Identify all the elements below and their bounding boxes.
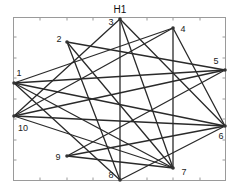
node-8 xyxy=(118,178,122,182)
node-10 xyxy=(12,114,16,118)
node-label-6: 6 xyxy=(218,131,223,141)
node-6 xyxy=(223,124,227,128)
node-7 xyxy=(171,166,175,170)
edge-5-9 xyxy=(67,70,225,156)
edge-4-6 xyxy=(173,28,225,126)
edge-7-10 xyxy=(14,116,173,168)
node-label-4: 4 xyxy=(180,24,185,34)
node-label-5: 5 xyxy=(213,56,218,66)
node-1 xyxy=(12,81,16,85)
node-label-9: 9 xyxy=(55,152,60,162)
node-2 xyxy=(65,40,69,44)
node-label-1: 1 xyxy=(16,68,21,78)
node-label-7: 7 xyxy=(181,167,186,177)
node-3 xyxy=(118,17,122,21)
node-9 xyxy=(65,154,69,158)
graph-diagram: 12345678910 H1 xyxy=(0,0,240,192)
node-5 xyxy=(223,68,227,72)
node-label-10: 10 xyxy=(18,123,28,133)
node-label-8: 8 xyxy=(108,170,113,180)
edge-3-7 xyxy=(120,19,173,168)
graph-title: H1 xyxy=(114,4,127,15)
node-label-2: 2 xyxy=(56,34,61,44)
edges xyxy=(14,19,225,180)
node-4 xyxy=(171,26,175,30)
node-label-3: 3 xyxy=(108,17,113,27)
